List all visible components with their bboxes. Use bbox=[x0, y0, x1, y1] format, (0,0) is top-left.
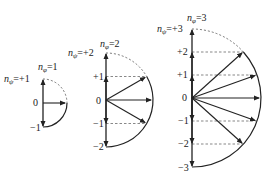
vector-minus-2 bbox=[192, 98, 242, 143]
n-psi-label: nψ=+1 bbox=[4, 73, 30, 86]
tick-0: 0 bbox=[33, 97, 38, 108]
tick-plus-1: +1 bbox=[93, 71, 104, 82]
vector-minus-1 bbox=[192, 98, 255, 121]
dashed-arc bbox=[192, 29, 243, 52]
tick-minus-2: −2 bbox=[93, 141, 104, 152]
tick-minus-3: −3 bbox=[178, 162, 189, 173]
dashed-arc bbox=[43, 79, 67, 103]
solid-arc bbox=[192, 52, 261, 167]
n-psi-label: nψ=+3 bbox=[157, 23, 183, 36]
tick-0: 0 bbox=[96, 95, 101, 106]
tick-0: 0 bbox=[182, 92, 187, 103]
tick-minus-1: −1 bbox=[30, 122, 41, 133]
tick-minus-2: −2 bbox=[178, 138, 189, 149]
dashed-arc bbox=[106, 53, 147, 77]
vector-minus-1 bbox=[106, 100, 145, 123]
vector-plus-1 bbox=[106, 78, 145, 101]
solid-arc bbox=[43, 103, 67, 127]
orbital-quantization-diagram: nφ=1 nψ=+1 0 −1 nφ=2 nψ=+2 +1 0 −1 −2 bbox=[0, 0, 274, 184]
tick-minus-1: −1 bbox=[178, 115, 189, 126]
n-phi-label: nφ=1 bbox=[38, 61, 58, 74]
tick-plus-1: +1 bbox=[177, 69, 188, 80]
diagram-n-phi-3: nφ=3 nψ=+3 +2 +1 0 −1 −2 −3 bbox=[157, 12, 261, 173]
vector-plus-2 bbox=[192, 53, 242, 98]
tick-minus-1: −1 bbox=[93, 118, 104, 129]
n-phi-label: nφ=2 bbox=[100, 38, 120, 51]
diagram-n-phi-1: nφ=1 nψ=+1 0 −1 bbox=[4, 61, 67, 133]
vector-plus-1 bbox=[192, 76, 255, 99]
diagram-n-phi-2: nφ=2 nψ=+2 +1 0 −1 −2 bbox=[68, 38, 153, 152]
n-psi-label: nψ=+2 bbox=[68, 47, 94, 60]
tick-plus-2: +2 bbox=[177, 46, 188, 57]
n-phi-label: nφ=3 bbox=[187, 12, 207, 25]
